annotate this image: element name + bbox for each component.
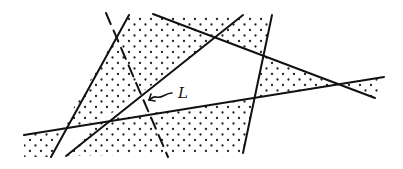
line-label: L [177,84,188,102]
line-arrangement-diagram: L [0,0,403,169]
label-pointer-arrow-icon [149,93,172,101]
